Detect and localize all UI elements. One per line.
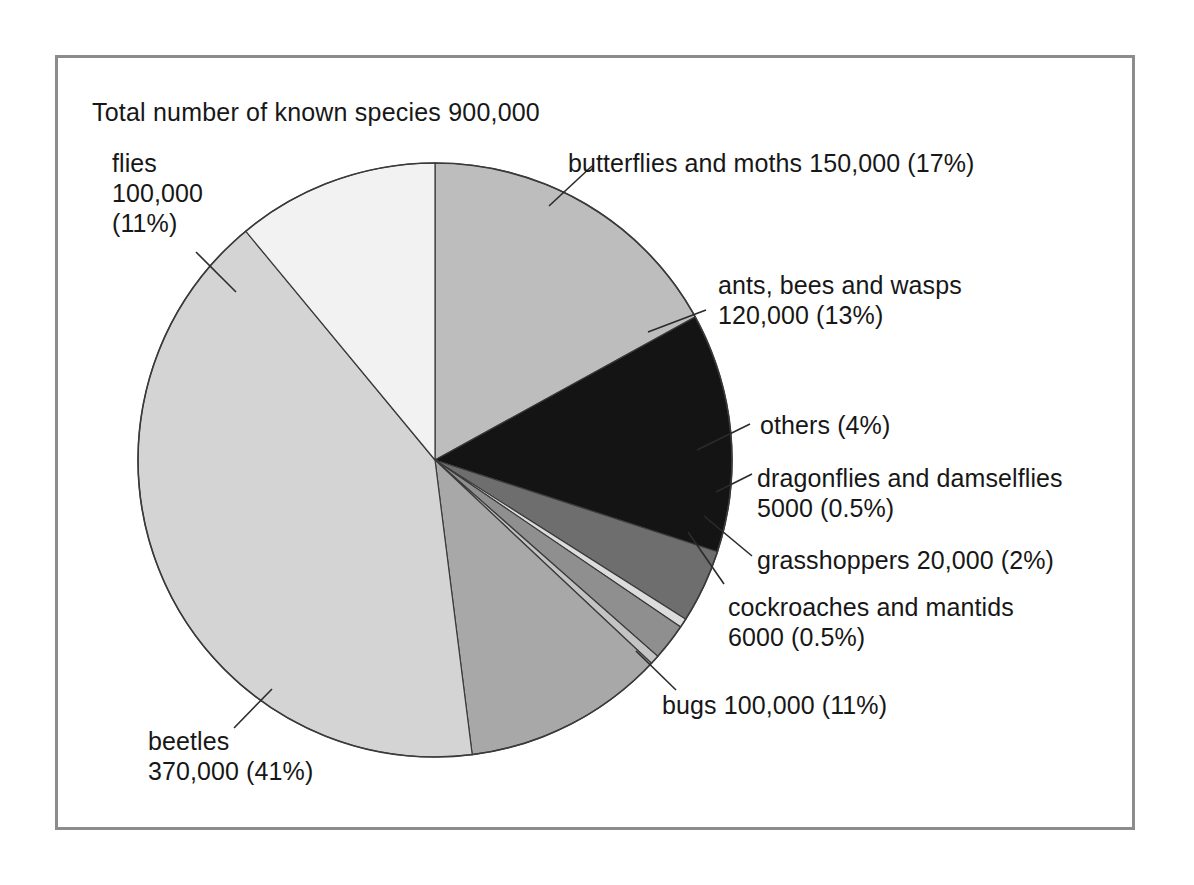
slice-label-flies-line3: (11%)	[112, 208, 203, 238]
pie-slice-group	[138, 163, 732, 757]
slice-label-others-line1: others (4%)	[760, 410, 890, 440]
slice-label-butterflies-line1: butterflies and moths 150,000 (17%)	[568, 148, 975, 178]
slice-label-beetles: beetles 370,000 (41%)	[148, 726, 313, 786]
chart-page: Total number of known species 900,000 fl…	[0, 0, 1194, 885]
slice-label-cockroaches-line2: 6000 (0.5%)	[728, 622, 1014, 652]
slice-label-beetles-line1: beetles	[148, 726, 313, 756]
slice-label-grasshoppers-line1: grasshoppers 20,000 (2%)	[757, 545, 1054, 575]
slice-label-flies: flies 100,000 (11%)	[112, 148, 203, 238]
slice-label-bugs: bugs 100,000 (11%)	[662, 690, 887, 720]
slice-label-dragonflies-and-damselflies: dragonflies and damselflies 5000 (0.5%)	[757, 463, 1063, 523]
slice-label-flies-line1: flies	[112, 148, 203, 178]
slice-label-ants-line1: ants, bees and wasps	[718, 270, 962, 300]
slice-label-bugs-line1: bugs 100,000 (11%)	[662, 690, 887, 720]
slice-label-cockroaches-line1: cockroaches and mantids	[728, 592, 1014, 622]
slice-label-dragonflies-line2: 5000 (0.5%)	[757, 493, 1063, 523]
slice-label-ants-line2: 120,000 (13%)	[718, 300, 962, 330]
slice-label-ants-bees-and-wasps: ants, bees and wasps 120,000 (13%)	[718, 270, 962, 330]
slice-label-beetles-line2: 370,000 (41%)	[148, 756, 313, 786]
slice-label-cockroaches-and-mantids: cockroaches and mantids 6000 (0.5%)	[728, 592, 1014, 652]
slice-label-butterflies-and-moths: butterflies and moths 150,000 (17%)	[568, 148, 975, 178]
slice-label-others: others (4%)	[760, 410, 890, 440]
slice-label-grasshoppers: grasshoppers 20,000 (2%)	[757, 545, 1054, 575]
slice-label-flies-line2: 100,000	[112, 178, 203, 208]
slice-label-dragonflies-line1: dragonflies and damselflies	[757, 463, 1063, 493]
